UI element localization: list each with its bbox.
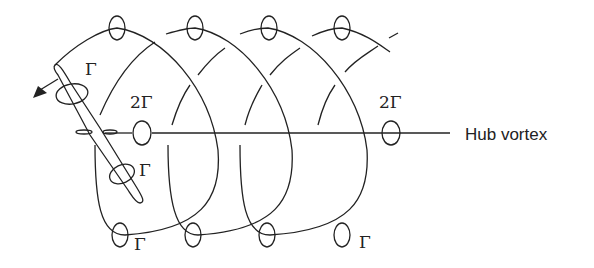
rotation-arrow-shaft: [40, 79, 58, 90]
label-hub-circulation-right: 2Γ: [379, 92, 402, 112]
vortex-diagram: Γ Γ 2Γ 2Γ Γ Γ Hub vortex: [0, 0, 594, 268]
helix-loop-4: [312, 28, 390, 52]
helix-loop-3: [240, 28, 367, 235]
hub-vortex-circle-left: [133, 121, 151, 145]
label-gamma-blade-upper: Γ: [85, 59, 97, 79]
rotation-arrow-head: [33, 86, 47, 98]
helix-loop-1: [55, 28, 218, 235]
label-hub-vortex: Hub vortex: [465, 125, 548, 144]
label-hub-circulation-left: 2Γ: [130, 92, 153, 112]
label-gamma-blade-lower: Γ: [139, 160, 151, 180]
label-gamma-bottom-left: Γ: [134, 234, 146, 254]
label-gamma-bottom-right: Γ: [359, 232, 371, 252]
vortex-circle-bottom-4: [334, 223, 350, 247]
helix-loop-2: [166, 28, 292, 235]
